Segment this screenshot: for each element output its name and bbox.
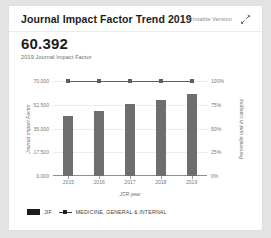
page-background: Journal Impact Factor Trend 2019 Printab… bbox=[0, 0, 271, 238]
legend-item-jif[interactable]: JIF bbox=[27, 209, 52, 215]
bar[interactable] bbox=[94, 111, 104, 176]
kpi-caption: 2019 Journal Impact Factor bbox=[21, 54, 92, 60]
kpi-value: 60.392 bbox=[21, 36, 92, 52]
y-axis-title-left: Journal Impact Factor bbox=[23, 81, 32, 176]
legend-item-label: JIF bbox=[44, 209, 52, 215]
bar-slot bbox=[115, 81, 146, 176]
bar-slot bbox=[53, 81, 84, 176]
bar[interactable] bbox=[125, 104, 135, 176]
x-tick-label: 2019 bbox=[186, 179, 197, 185]
printable-version-link[interactable]: Printable Version bbox=[187, 16, 232, 22]
trend-chart: Journal Impact Factor Percentile rank in… bbox=[9, 72, 262, 230]
y2-tick-label: 25% bbox=[211, 149, 221, 155]
x-tick-label: 2017 bbox=[124, 179, 135, 185]
legend-item-category[interactable]: MEDICINE, GENERAL & INTERNAL bbox=[59, 209, 167, 215]
y-tick-label: 35.000 bbox=[33, 126, 49, 132]
y2-tick-label: 100% bbox=[211, 78, 224, 84]
y-tick-label: 52.500 bbox=[33, 102, 49, 108]
y2-tick-label: 75% bbox=[211, 102, 221, 108]
plot-area: 70.000 52.500 35.000 17.500 0.000 100% 7… bbox=[53, 81, 207, 176]
bar[interactable] bbox=[187, 94, 197, 176]
y2-tick-label: 50% bbox=[211, 126, 221, 132]
y2-tick-label: 0% bbox=[211, 173, 218, 179]
bar-series-jif bbox=[53, 81, 207, 176]
legend-line-swatch-icon bbox=[59, 209, 72, 215]
x-axis-title: JCR year bbox=[53, 191, 207, 197]
page-title: Journal Impact Factor Trend 2019 bbox=[21, 13, 192, 25]
y-axis-title-right: Percentile rank in category bbox=[237, 81, 246, 176]
bar[interactable] bbox=[156, 100, 166, 176]
x-tick-label: 2018 bbox=[155, 179, 166, 185]
y-tick-label: 0.000 bbox=[36, 173, 49, 179]
expand-diagonal-icon[interactable] bbox=[240, 14, 251, 25]
journal-impact-factor-card: Journal Impact Factor Trend 2019 Printab… bbox=[8, 5, 263, 231]
y-tick-label: 17.500 bbox=[33, 149, 49, 155]
card-header: Journal Impact Factor Trend 2019 Printab… bbox=[9, 6, 262, 32]
bar-slot bbox=[145, 81, 176, 176]
x-tick-label: 2015 bbox=[63, 179, 74, 185]
chart-legend: JIF MEDICINE, GENERAL & INTERNAL bbox=[27, 209, 167, 215]
legend-item-label: MEDICINE, GENERAL & INTERNAL bbox=[76, 209, 167, 215]
y-axis-title-right-text: Percentile rank in category bbox=[239, 98, 245, 158]
y-axis-title-left-text: Journal Impact Factor bbox=[25, 104, 31, 153]
y-tick-label: 70.000 bbox=[33, 78, 49, 84]
bar[interactable] bbox=[63, 116, 73, 176]
x-tick-label: 2016 bbox=[94, 179, 105, 185]
bar-slot bbox=[176, 81, 207, 176]
legend-bar-swatch-icon bbox=[27, 209, 40, 215]
bar-slot bbox=[84, 81, 115, 176]
kpi-block: 60.392 2019 Journal Impact Factor bbox=[21, 36, 92, 60]
